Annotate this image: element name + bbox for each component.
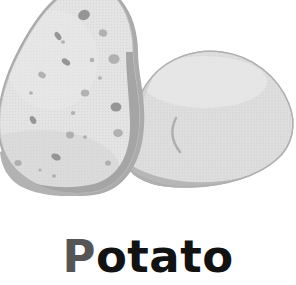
potato-illustration	[0, 0, 296, 225]
potato-eye-spot	[81, 89, 89, 96]
potato-flashcard: Potato	[0, 0, 296, 285]
potato-eye-spot	[29, 91, 33, 95]
potato-eye-spot	[108, 54, 119, 64]
caption-rest: otato	[96, 230, 234, 283]
potato-eye-spot	[105, 160, 111, 165]
potato-eye-spot	[98, 76, 102, 80]
potato-eye-spot	[83, 135, 87, 139]
caption-lead-letter: P	[62, 230, 95, 283]
whole-potato-highlight	[143, 56, 267, 108]
potato-eye-spot	[113, 129, 123, 137]
potato-eye-spot	[90, 58, 95, 62]
potato-eye-spot	[38, 168, 41, 171]
potato-eye-spot	[14, 160, 21, 166]
potato-eye-spot	[66, 132, 74, 139]
potato-eye-spot	[71, 111, 75, 115]
potato-illustration-svg	[0, 0, 296, 225]
potato-eye-spot	[111, 102, 122, 111]
potato-eye-spot	[61, 40, 65, 44]
cut-potato-half	[0, 0, 144, 210]
caption-potato: Potato	[0, 232, 296, 282]
potato-eye-spot	[52, 174, 56, 178]
